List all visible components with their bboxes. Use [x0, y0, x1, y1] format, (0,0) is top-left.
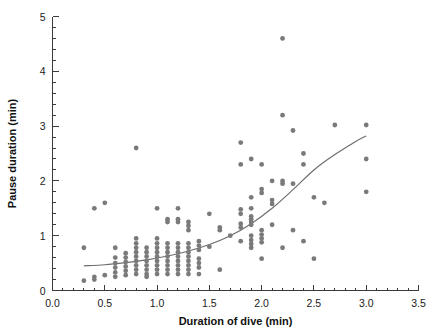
data-point: [144, 259, 149, 264]
data-point: [81, 278, 86, 283]
data-point: [259, 162, 264, 167]
data-point: [259, 256, 264, 261]
data-point: [144, 263, 149, 268]
data-point: [165, 241, 170, 246]
data-point: [312, 256, 317, 261]
data-point: [249, 222, 254, 227]
x-axis-title: Duration of dive (min): [179, 315, 293, 327]
data-point: [134, 267, 139, 272]
x-axis-tick-label: 1.0: [150, 297, 165, 309]
data-point: [197, 261, 202, 266]
y-axis-tick-label: 4: [40, 65, 46, 77]
data-point: [165, 245, 170, 250]
data-point: [113, 265, 118, 270]
data-point: [364, 189, 369, 194]
y-axis-tick-label: 1: [40, 230, 46, 242]
data-point: [249, 233, 254, 238]
data-point: [186, 263, 191, 268]
data-point: [155, 259, 160, 264]
data-point: [186, 241, 191, 246]
data-point: [155, 267, 160, 272]
data-point: [155, 250, 160, 255]
data-point: [186, 267, 191, 272]
data-point: [197, 256, 202, 261]
chart-canvas: 0.00.51.01.52.02.53.03.5012345Duration o…: [0, 0, 443, 334]
data-point: [176, 250, 181, 255]
data-point: [312, 195, 317, 200]
data-point: [207, 244, 212, 249]
data-point: [134, 272, 139, 277]
data-point: [165, 263, 170, 268]
data-point: [176, 263, 181, 268]
data-point: [102, 273, 107, 278]
x-axis-tick-label: 2.5: [307, 297, 322, 309]
data-point: [176, 272, 181, 277]
data-point: [186, 254, 191, 259]
data-point: [165, 220, 170, 225]
y-axis-tick-label: 0: [40, 285, 46, 297]
data-point: [165, 267, 170, 272]
data-point: [270, 179, 275, 184]
data-point: [301, 239, 306, 244]
data-point: [238, 239, 243, 244]
data-point: [238, 225, 243, 230]
y-axis-tick-label: 5: [40, 11, 46, 23]
data-point: [155, 236, 160, 241]
data-point: [123, 264, 128, 269]
data-point: [197, 272, 202, 277]
data-point: [249, 195, 254, 200]
data-point: [186, 223, 191, 228]
data-point: [332, 123, 337, 128]
data-point: [291, 128, 296, 133]
data-point: [123, 273, 128, 278]
data-point: [134, 146, 139, 151]
scatter-plot-figure: 0.00.51.01.52.02.53.03.5012345Duration o…: [0, 0, 443, 334]
data-point: [259, 228, 264, 233]
data-point: [291, 181, 296, 186]
data-point: [155, 254, 160, 259]
data-point: [249, 245, 254, 250]
data-point: [197, 239, 202, 244]
data-point: [186, 259, 191, 264]
data-point: [259, 240, 264, 245]
data-point: [197, 248, 202, 253]
x-axis-tick-label: 3.0: [359, 297, 374, 309]
data-point: [176, 220, 181, 225]
data-point: [301, 151, 306, 156]
data-point: [197, 265, 202, 270]
data-point: [165, 250, 170, 255]
data-point: [270, 202, 275, 207]
x-axis-tick-label: 3.5: [411, 297, 426, 309]
data-point: [134, 245, 139, 250]
x-axis-tick-label: 0.0: [45, 297, 60, 309]
data-point: [280, 113, 285, 118]
y-axis-tick-label: 3: [40, 120, 46, 132]
data-point: [186, 228, 191, 233]
data-point: [280, 181, 285, 186]
data-point: [155, 263, 160, 268]
data-point: [291, 228, 296, 233]
data-point: [301, 162, 306, 167]
data-point: [176, 241, 181, 246]
data-point: [176, 206, 181, 211]
data-point: [134, 241, 139, 246]
data-point: [155, 206, 160, 211]
data-point: [113, 245, 118, 250]
data-point: [176, 254, 181, 259]
axis-lines: [53, 17, 419, 291]
data-point: [228, 233, 233, 238]
data-point: [270, 222, 275, 227]
data-point: [176, 267, 181, 272]
data-point: [123, 268, 128, 273]
data-point: [238, 211, 243, 216]
data-point: [123, 251, 128, 256]
data-point: [238, 207, 243, 212]
data-point: [144, 254, 149, 259]
data-point: [123, 260, 128, 265]
x-axis-tick-label: 1.5: [202, 297, 217, 309]
data-point: [81, 245, 86, 250]
data-point: [364, 157, 369, 162]
data-point: [155, 245, 160, 250]
y-axis-title: Pause duration (min): [6, 98, 18, 208]
data-point: [259, 191, 264, 196]
